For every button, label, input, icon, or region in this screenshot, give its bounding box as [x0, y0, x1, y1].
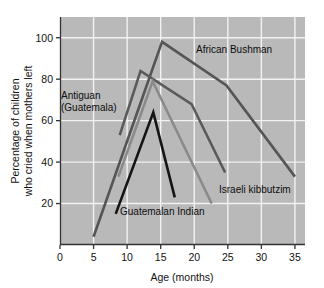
african-bushman-label: African Bushman — [196, 44, 272, 55]
x-tick-label-35: 35 — [289, 251, 301, 263]
x-tick-label-15: 15 — [155, 251, 167, 263]
x-axis-title: Age (months) — [150, 271, 213, 283]
x-tick-label-30: 30 — [256, 251, 268, 263]
israeli-kibbutzim-label: Israeli kibbutzim — [219, 184, 291, 195]
x-tick-label-5: 5 — [91, 251, 97, 263]
chart-figure: 20406080100 05101520253035 Age (months) … — [0, 0, 324, 288]
x-tick-label-20: 20 — [188, 251, 200, 263]
y-axis-ticks — [56, 38, 60, 204]
x-tick-label-25: 25 — [222, 251, 234, 263]
y-tick-label-20: 20 — [41, 197, 53, 209]
antiguan-label-line2: (Guatemala) — [61, 102, 117, 113]
y-axis-tick-labels: 20406080100 — [35, 32, 53, 210]
y-axis-title-line1: Percentage of children — [9, 78, 21, 183]
guatemalan-indian-label: Guatemalan Indian — [120, 206, 205, 217]
antiguan-label-line1: Antiguan — [61, 90, 100, 101]
x-tick-label-0: 0 — [57, 251, 63, 263]
x-axis-tick-labels: 05101520253035 — [57, 251, 301, 263]
line-chart: 20406080100 05101520253035 Age (months) … — [0, 0, 324, 288]
x-axis-ticks — [60, 245, 295, 249]
y-tick-label-60: 60 — [41, 114, 53, 126]
y-tick-label-80: 80 — [41, 73, 53, 85]
x-tick-label-10: 10 — [121, 251, 133, 263]
y-tick-label-40: 40 — [41, 156, 53, 168]
y-axis-title-line2: who cried when mothers left — [22, 66, 34, 198]
y-tick-label-100: 100 — [35, 32, 53, 44]
